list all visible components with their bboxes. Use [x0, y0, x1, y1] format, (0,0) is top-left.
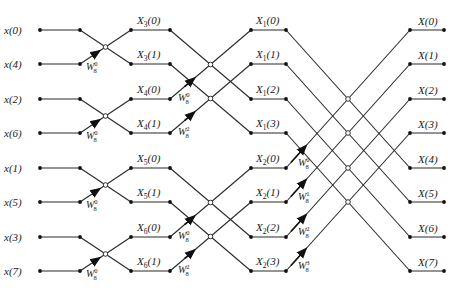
node-dot — [129, 166, 133, 170]
node-dot — [249, 28, 253, 32]
input-label: x(3) — [3, 231, 22, 244]
output-label: X(3) — [417, 118, 438, 131]
node-dot — [168, 97, 172, 101]
butterfly-node — [208, 200, 213, 205]
node-dots — [38, 28, 446, 273]
node-dot — [408, 235, 412, 239]
twiddle-arrow-icon — [93, 120, 99, 124]
input-label: x(5) — [3, 196, 22, 209]
node-dot — [284, 97, 288, 101]
stage2-output-label: X1(2) — [255, 83, 280, 98]
node-dot — [408, 62, 412, 66]
node-dot — [284, 131, 288, 135]
node-dot — [129, 28, 133, 32]
node-dot — [442, 131, 446, 135]
node-dot — [78, 97, 82, 101]
node-dot — [408, 166, 412, 170]
butterfly-node — [346, 166, 351, 171]
output-label: X(5) — [417, 187, 438, 200]
node-dot — [249, 269, 253, 273]
butterfly-node — [346, 200, 351, 205]
twiddle-factor-label: W38 — [298, 259, 310, 273]
twiddle-arrow-icon — [185, 216, 195, 224]
input-label: x(7) — [3, 265, 22, 278]
signal-wires — [40, 30, 444, 271]
node-dot — [284, 235, 288, 239]
twiddle-arrow-icon — [93, 51, 99, 55]
node-dot — [442, 200, 446, 204]
stage1-output-label: X6(0) — [136, 221, 161, 236]
stage1-output-label: X3(0) — [136, 14, 161, 29]
butterfly-node — [346, 131, 351, 136]
node-dot — [168, 166, 172, 170]
node-dot — [78, 131, 82, 135]
stage2-output-label: X2(1) — [255, 186, 280, 201]
node-dot — [442, 28, 446, 32]
stage1-output-label: X5(0) — [136, 152, 161, 167]
twiddle-factor-label: W18 — [298, 190, 310, 204]
node-dot — [129, 131, 133, 135]
twiddle-arrow-icon — [93, 258, 99, 262]
node-dot — [78, 200, 82, 204]
input-label: x(0) — [3, 24, 22, 37]
stage2-output-label: X1(1) — [255, 48, 280, 63]
node-dot — [249, 62, 253, 66]
output-label: X(7) — [417, 256, 438, 269]
node-dot — [408, 131, 412, 135]
node-dot — [168, 28, 172, 32]
node-dot — [249, 200, 253, 204]
input-label: x(2) — [3, 93, 22, 106]
node-dot — [38, 131, 42, 135]
input-label: x(1) — [3, 162, 22, 175]
node-dot — [129, 200, 133, 204]
stage1-output-label: X3(1) — [136, 48, 161, 63]
node-dot — [168, 200, 172, 204]
node-dot — [442, 62, 446, 66]
butterfly-node — [103, 252, 108, 257]
stage1-output-label: X4(1) — [136, 117, 161, 132]
output-label: X(0) — [417, 15, 438, 28]
node-dot — [442, 235, 446, 239]
twiddle-arrow-icon — [185, 112, 195, 120]
node-dot — [38, 28, 42, 32]
node-dot — [284, 28, 288, 32]
twiddle-factor-label: W08 — [86, 198, 98, 212]
twiddle-factor-label: W08 — [298, 156, 310, 170]
node-dot — [284, 62, 288, 66]
node-dot — [78, 235, 82, 239]
node-dot — [78, 166, 82, 170]
node-dot — [442, 269, 446, 273]
twiddle-factor-label: W28 — [178, 263, 190, 277]
node-dot — [168, 235, 172, 239]
butterfly-node — [208, 234, 213, 239]
node-dot — [168, 62, 172, 66]
stage1-output-label: X4(0) — [136, 83, 161, 98]
node-dot — [408, 200, 412, 204]
twiddle-arrow-icon — [185, 250, 195, 258]
butterfly-node — [103, 114, 108, 119]
node-dot — [38, 62, 42, 66]
node-dot — [408, 28, 412, 32]
stage2-output-label: X2(3) — [255, 255, 280, 270]
butterfly-node — [208, 62, 213, 67]
output-label: X(1) — [417, 49, 438, 62]
twiddle-factor-label: W08 — [178, 91, 190, 105]
stage2-output-label: X1(0) — [255, 14, 280, 29]
node-dot — [168, 131, 172, 135]
node-dot — [38, 166, 42, 170]
node-dot — [249, 235, 253, 239]
butterfly-node — [346, 97, 351, 102]
node-dot — [38, 97, 42, 101]
node-dot — [129, 97, 133, 101]
node-dot — [408, 269, 412, 273]
node-dot — [249, 166, 253, 170]
output-label: X(2) — [417, 84, 438, 97]
node-dot — [129, 269, 133, 273]
node-dot — [78, 28, 82, 32]
stage2-output-label: X2(2) — [255, 221, 280, 236]
twiddle-factor-label: W08 — [86, 60, 98, 74]
fft-flow-graph: x(0)x(4)x(2)x(6)x(1)x(5)x(3)x(7)W08W08W0… — [0, 0, 458, 292]
node-dot — [284, 200, 288, 204]
node-dot — [38, 269, 42, 273]
node-dot — [284, 269, 288, 273]
